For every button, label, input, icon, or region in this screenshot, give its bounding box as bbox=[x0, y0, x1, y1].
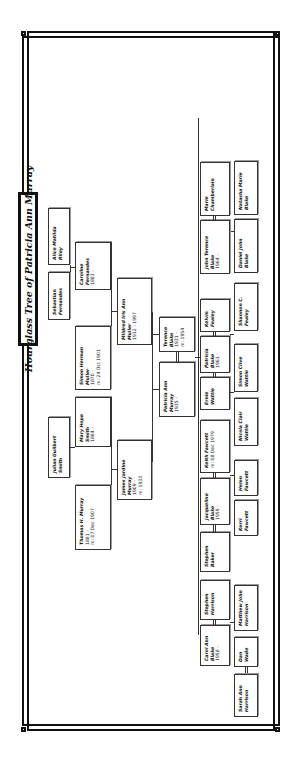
person-box[interactable]: Alice Matilda Riley bbox=[48, 208, 70, 265]
person-box[interactable]: Caroline Fernandes 1883 - bbox=[75, 242, 111, 290]
connector-line bbox=[111, 397, 112, 485]
person-box[interactable]: Thomas H. Murray 1881 - m: 07 Dec 1907 bbox=[75, 485, 111, 550]
person-box[interactable]: Patricia Blake 1961 - bbox=[200, 336, 230, 373]
hourglass-tree-diagram: Hourglass Tree of Patricia Ann Murray Al… bbox=[0, 0, 301, 758]
person-name: Shannon C. Fealey bbox=[238, 288, 249, 326]
person-box-focus[interactable]: Patricia Ann Murray 1935 - bbox=[159, 362, 195, 417]
person-name: James Jardine Murray bbox=[121, 445, 132, 495]
connector-line bbox=[198, 118, 199, 635]
frame-corner-tl bbox=[21, 727, 26, 732]
person-name: Mary Hope Smith bbox=[79, 402, 90, 442]
person-name: Sebastian Fernandes bbox=[52, 277, 63, 315]
person-box[interactable]: Stephen Baker bbox=[200, 532, 230, 572]
person-name: Simon Clive Wattie bbox=[238, 349, 249, 387]
person-name: Stephen Harrison bbox=[204, 585, 215, 615]
person-box[interactable]: Sarah Ann Harrison bbox=[234, 674, 258, 717]
connector-line bbox=[152, 389, 159, 390]
connector-line bbox=[70, 267, 75, 268]
person-name: Marie Chamberlain bbox=[204, 167, 215, 211]
person-dates: 1912 - 1997 bbox=[132, 283, 138, 340]
person-dates: 1883 - bbox=[90, 247, 96, 285]
person-name: Carol Ann Blake bbox=[204, 630, 215, 661]
connector-line bbox=[111, 242, 112, 326]
person-marriage: m: 07 Dec 1907 bbox=[90, 490, 96, 545]
connector-line bbox=[230, 392, 234, 393]
person-box[interactable]: Mildred Iris Ann Muller 1912 - 1997 bbox=[117, 278, 152, 345]
person-box[interactable]: Shannon C. Fealey bbox=[234, 283, 258, 331]
person-name: Terence Blake bbox=[163, 322, 174, 347]
person-name: Daniel John Blake bbox=[238, 224, 249, 268]
person-name: Mildred Iris Ann Muller bbox=[121, 283, 132, 340]
person-box[interactable]: Mary Hope Smith 1884 - bbox=[75, 397, 111, 447]
person-name: Simon Herman Muller bbox=[79, 331, 90, 385]
connector-line bbox=[230, 334, 234, 335]
marriage-connector bbox=[213, 373, 216, 377]
connector-line bbox=[70, 447, 75, 448]
marriage-connector bbox=[213, 473, 216, 478]
connector-line bbox=[111, 311, 117, 312]
person-dates: 1958 - bbox=[215, 630, 221, 661]
person-name: Kelvin Fealey bbox=[204, 304, 215, 327]
person-box[interactable]: Daniel John Blake bbox=[234, 219, 258, 273]
person-name: John Terence Blake bbox=[204, 225, 215, 269]
person-box[interactable]: Marie Chamberlain bbox=[200, 162, 230, 216]
person-name: Natasha Marie Blake bbox=[238, 166, 249, 210]
person-box[interactable]: Carol Ann Blake 1958 - bbox=[200, 625, 230, 666]
person-box[interactable]: Terence Blake 1931 - m: 1954 bbox=[159, 317, 195, 352]
person-marriage: m: 24 Oct 1901 bbox=[96, 331, 102, 385]
person-dates: 1961 - bbox=[215, 341, 221, 368]
person-box[interactable]: Helen Fawcett bbox=[234, 460, 258, 496]
marriage-connector bbox=[213, 332, 216, 336]
person-name: Sarah Ann Harrison bbox=[238, 679, 249, 712]
frame-corner-br bbox=[275, 31, 280, 36]
person-box[interactable]: James Jardine Murray 1909 - m: 1933 bbox=[117, 440, 152, 500]
person-dates: 1935 - bbox=[174, 367, 180, 412]
person-box[interactable]: Simon Herman Muller 1870 - m: 24 Oct 190… bbox=[75, 326, 111, 390]
person-box[interactable]: Dan Wade bbox=[234, 637, 258, 667]
marriage-connector bbox=[213, 216, 216, 220]
person-name: Patricia Blake bbox=[204, 341, 215, 368]
marriage-connector bbox=[245, 667, 248, 674]
person-box[interactable]: Ernie Wattie bbox=[200, 377, 230, 410]
marriage-connector bbox=[213, 620, 216, 625]
person-box[interactable]: Nicola Clair Wattie bbox=[234, 398, 258, 446]
person-name: Stephen Baker bbox=[204, 537, 215, 567]
person-name: Caroline Fernandes bbox=[79, 247, 90, 285]
person-name: Thomas H. Murray bbox=[79, 490, 85, 545]
marriage-connector bbox=[213, 525, 216, 532]
frame-corner-bl bbox=[275, 727, 280, 732]
person-dates: 1959 - bbox=[215, 483, 221, 520]
person-box[interactable]: Matthew John Harrison bbox=[234, 585, 258, 631]
person-dates: 1884 - bbox=[90, 402, 96, 442]
person-name: Julian Guilbert Smith bbox=[52, 422, 63, 473]
person-box[interactable]: Jacqueline Blake 1959 - bbox=[200, 478, 230, 525]
person-name: Jacqueline Blake bbox=[204, 483, 215, 520]
person-name: Nicola Clair Wattie bbox=[238, 403, 249, 441]
person-box[interactable]: Julian Guilbert Smith bbox=[48, 417, 70, 478]
connector-line bbox=[152, 334, 159, 335]
marriage-connector bbox=[176, 352, 179, 362]
tree-title: Hourglass Tree of Patricia Ann Murray bbox=[18, 192, 38, 346]
person-name: Patricia Ann Murray bbox=[163, 367, 174, 412]
person-name: Dan Wade bbox=[238, 642, 249, 662]
person-box[interactable]: Simon Clive Wattie bbox=[234, 344, 258, 392]
person-box[interactable]: Natasha Marie Blake bbox=[234, 161, 258, 215]
person-dates: 1964 - bbox=[215, 225, 221, 269]
person-marriage: m: 08 Dec 1979 bbox=[210, 425, 216, 468]
person-name: Ernie Wattie bbox=[204, 382, 215, 405]
person-box[interactable]: Sebastian Fernandes bbox=[48, 272, 70, 320]
person-name: Matthew John Harrison bbox=[238, 590, 249, 626]
person-box[interactable]: Keith Fawcett m: 08 Dec 1979 bbox=[200, 420, 230, 473]
person-marriage: m: 1933 bbox=[138, 445, 144, 495]
person-name: Helen Fawcett bbox=[238, 465, 249, 491]
person-box[interactable]: Stephen Harrison bbox=[200, 580, 230, 620]
person-marriage: m: 1954 bbox=[180, 322, 186, 347]
frame-corner-tr bbox=[21, 31, 26, 36]
connector-line bbox=[111, 469, 117, 470]
person-box[interactable]: Kerri Fawcett bbox=[234, 500, 258, 536]
person-box[interactable]: John Terence Blake 1964 - bbox=[200, 220, 230, 274]
person-name: Alice Matilda Riley bbox=[52, 213, 63, 260]
person-box[interactable]: Kelvin Fealey bbox=[200, 299, 230, 332]
person-name: Kerri Fawcett bbox=[238, 505, 249, 531]
